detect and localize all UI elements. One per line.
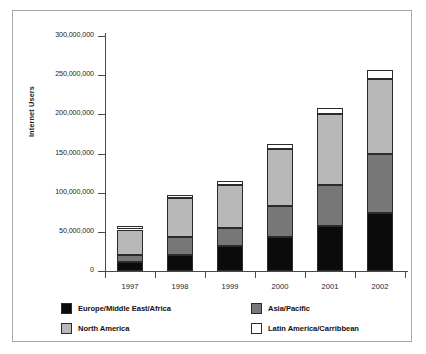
legend-swatch-icon: [61, 303, 72, 314]
x-axis-tick: [255, 271, 256, 278]
legend-swatch-icon: [251, 323, 262, 334]
bar-segment[interactable]: [217, 185, 243, 228]
x-axis-tick: [105, 271, 106, 278]
bar-segment[interactable]: [267, 149, 293, 206]
y-axis-tick: 300,000,000: [98, 36, 105, 37]
bar-segment[interactable]: [267, 144, 293, 149]
y-axis-tick-label: 150,000,000: [55, 148, 98, 157]
legend-item[interactable]: Latin America/Carribbean: [251, 323, 359, 334]
bar-segment[interactable]: [167, 195, 193, 198]
x-axis-tick-label: 2001: [310, 282, 350, 291]
plot-area: [105, 36, 405, 271]
y-axis-tick-label: 100,000,000: [55, 187, 98, 196]
bar-segment[interactable]: [267, 206, 293, 237]
bar-segment[interactable]: [167, 255, 193, 271]
legend-item-label: North America: [78, 324, 129, 333]
legend-item[interactable]: North America: [61, 323, 129, 334]
x-axis-tick-label: 2000: [260, 282, 300, 291]
x-axis-line: [105, 271, 408, 272]
y-axis-tick: 250,000,000: [98, 75, 105, 76]
bar-segment[interactable]: [117, 230, 143, 256]
x-axis-tick: [155, 271, 156, 278]
x-axis-tick-label: 1997: [110, 282, 150, 291]
bar-segment[interactable]: [367, 79, 393, 153]
x-axis-tick: [205, 271, 206, 278]
bar-segment[interactable]: [367, 154, 393, 214]
bar-segment[interactable]: [367, 213, 393, 271]
chart-legend: Europe/Middle East/AfricaAsia/PacificNor…: [61, 303, 401, 341]
bar-segment[interactable]: [117, 262, 143, 271]
legend-swatch-icon: [251, 303, 262, 314]
bar-segment[interactable]: [167, 237, 193, 254]
y-axis-title: Internet Users: [27, 52, 36, 172]
bar-segment[interactable]: [317, 108, 343, 114]
chart-figure: Internet Users 300,000,000250,000,000200…: [12, 10, 412, 342]
x-axis-tick: [305, 271, 306, 278]
x-axis-tick-label: 2002: [360, 282, 400, 291]
bar-segment[interactable]: [167, 198, 193, 237]
x-axis-tick-label: 1999: [210, 282, 250, 291]
x-axis-tick-label: 1998: [160, 282, 200, 291]
legend-item-label: Latin America/Carribbean: [268, 324, 359, 333]
bar-segment[interactable]: [267, 237, 293, 271]
x-axis-tick: [355, 271, 356, 278]
y-axis-tick: 0: [98, 271, 105, 272]
bar-segment[interactable]: [217, 228, 243, 246]
y-axis-tick-label: 0: [90, 265, 98, 274]
y-axis-tick-label: 300,000,000: [55, 30, 98, 39]
bar-segment[interactable]: [317, 226, 343, 271]
bar-segment[interactable]: [367, 70, 393, 79]
legend-swatch-icon: [61, 323, 72, 334]
y-axis-tick-label: 250,000,000: [55, 69, 98, 78]
legend-item-label: Asia/Pacific: [268, 304, 310, 313]
legend-item[interactable]: Europe/Middle East/Africa: [61, 303, 171, 314]
y-axis-tick: 100,000,000: [98, 193, 105, 194]
bar-segment[interactable]: [317, 185, 343, 226]
bar-segment[interactable]: [117, 255, 143, 261]
bar-segment[interactable]: [217, 246, 243, 271]
y-axis-tick-label: 200,000,000: [55, 108, 98, 117]
x-axis-tick: [405, 271, 406, 278]
bar-segment[interactable]: [217, 181, 243, 185]
y-axis-tick: 50,000,000: [98, 232, 105, 233]
legend-item-label: Europe/Middle East/Africa: [78, 304, 171, 313]
bar-segment[interactable]: [317, 114, 343, 185]
y-axis-tick: 150,000,000: [98, 154, 105, 155]
legend-item[interactable]: Asia/Pacific: [251, 303, 310, 314]
y-axis-tick-label: 50,000,000: [59, 226, 98, 235]
bar-segment[interactable]: [117, 226, 143, 230]
y-axis-tick: 200,000,000: [98, 114, 105, 115]
